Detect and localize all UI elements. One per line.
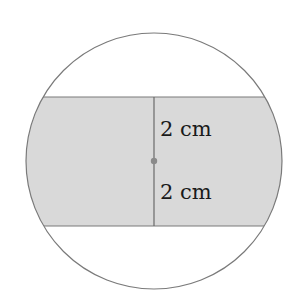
circle-band-diagram: 2 cm 2 cm [0,0,300,308]
upper-length-label: 2 cm [160,117,212,141]
lower-length-label: 2 cm [160,180,212,204]
center-point [151,158,157,164]
shaded-band [0,97,300,226]
